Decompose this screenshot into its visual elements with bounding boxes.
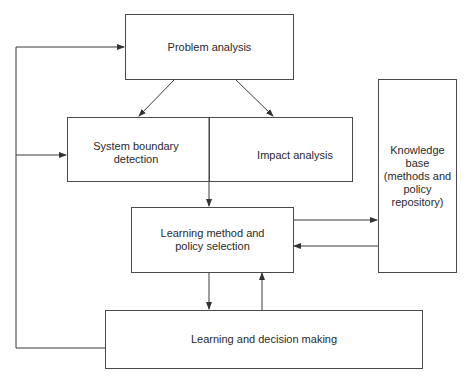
label-line: detection <box>72 153 200 166</box>
node-label: Learning and decision making <box>191 333 337 346</box>
label-line: repository) <box>384 196 451 209</box>
divider-line <box>209 117 210 181</box>
feedback-loop-line <box>16 47 124 348</box>
arrow-problem-to-boundary <box>139 79 175 116</box>
label-line: (methods and <box>384 170 451 183</box>
label-line: System boundary <box>72 140 200 153</box>
node-knowledge-base: Knowledge base (methods and policy repos… <box>378 79 457 273</box>
node-impact-analysis: Impact analysis <box>240 149 350 162</box>
label-line: Knowledge <box>384 144 451 157</box>
node-problem-analysis: Problem analysis <box>125 14 294 80</box>
node-system-boundary: System boundary detection <box>72 140 200 166</box>
node-label: Problem analysis <box>168 41 252 54</box>
label-line: base <box>384 157 451 170</box>
node-label: Impact analysis <box>257 149 333 161</box>
arrow-problem-to-impact <box>235 79 273 116</box>
label-line: Learning method and <box>161 227 265 240</box>
label-line: policy <box>384 183 451 196</box>
label-line: policy selection <box>161 240 265 253</box>
node-learning-method: Learning method and policy selection <box>131 207 294 273</box>
node-learning-decision: Learning and decision making <box>105 310 423 369</box>
